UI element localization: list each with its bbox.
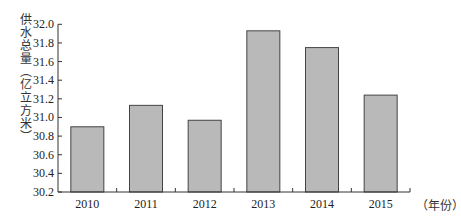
y-tick-label: 31.2 [33,92,54,106]
x-tick-label: 2011 [134,197,158,211]
y-tick-label: 30.2 [33,185,54,199]
y-axis-label: 供水总量︵亿立方米︶ [19,14,33,144]
bar-2015 [364,95,397,192]
x-tick-label: 2010 [75,197,99,211]
bar-2012 [188,120,221,192]
bar-2013 [247,31,280,192]
plot-area: 20102011201220132014201530.230.430.630.8… [0,0,461,221]
y-tick-label: 30.4 [33,166,54,180]
bar-2011 [130,105,163,192]
y-tick-label: 30.8 [33,129,54,143]
y-tick-label: 30.6 [33,148,54,162]
x-tick-label: 2012 [193,197,217,211]
y-tick-label: 31.4 [33,73,54,87]
y-tick-label: 31.8 [33,36,54,50]
y-tick-label: 31.6 [33,55,54,69]
y-tick-label: 32.0 [33,17,54,31]
x-tick-label: 2013 [251,197,275,211]
x-tick-label: 2014 [310,197,334,211]
bar-2010 [71,127,104,192]
bar-chart: 20102011201220132014201530.230.430.630.8… [0,0,461,221]
y-tick-label: 31.0 [33,110,54,124]
bar-2014 [306,48,339,192]
y-axis-label-char: ︶ [19,131,33,144]
x-tick-label: 2015 [369,197,393,211]
x-axis-unit-label: （年份） [416,196,461,213]
